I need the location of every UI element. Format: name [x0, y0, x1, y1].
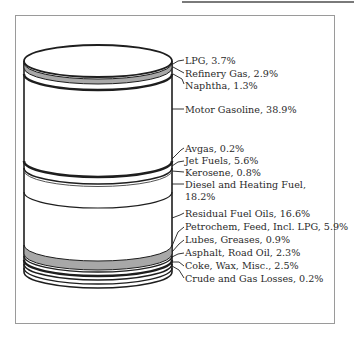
barrel: [24, 45, 172, 288]
label-petrochem: Petrochem, Feed, Incl. LPG, 5.9%: [185, 221, 348, 232]
label-jet-fuels: Jet Fuels, 5.6%: [184, 155, 258, 166]
label-diesel-line2: 18.2%: [185, 191, 215, 202]
label-motor-gasoline: Motor Gasoline, 38.9%: [185, 104, 297, 115]
label-residual: Residual Fuel Oils, 16.6%: [185, 208, 310, 219]
label-crude-losses: Crude and Gas Losses, 0.2%: [185, 273, 324, 284]
label-kerosene: Kerosene, 0.8%: [185, 167, 261, 178]
label-avgas: Avgas, 0.2%: [184, 143, 244, 154]
label-naphtha: Naphtha, 1.3%: [185, 80, 258, 91]
label-diesel-line1: Diesel and Heating Fuel,: [185, 179, 306, 190]
label-asphalt: Asphalt, Road Oil, 2.3%: [184, 247, 300, 258]
barrel-top: [24, 45, 172, 77]
label-lubes: Lubes, Greases, 0.9%: [185, 234, 290, 245]
barrel-diagram: LPG, 3.7% Refinery Gas, 2.9% Naphtha, 1.…: [0, 0, 354, 340]
label-lpg: LPG, 3.7%: [185, 55, 236, 66]
label-coke: Coke, Wax, Misc., 2.5%: [185, 260, 299, 271]
barrel-body: [24, 61, 172, 288]
label-refinery-gas: Refinery Gas, 2.9%: [185, 68, 278, 79]
